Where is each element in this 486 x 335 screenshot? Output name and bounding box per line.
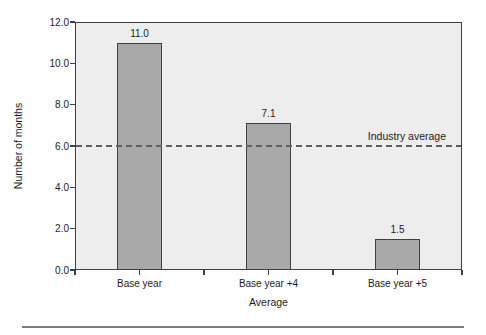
y-tick-mark [70,63,75,65]
bar-value-label: 11.0 [110,27,170,41]
category-label: Base year +5 [333,277,462,290]
x-tick-mark [268,270,270,275]
bar-value-label: 7.1 [239,107,299,121]
x-tick-mark [461,270,463,275]
y-tick-label: 4.0 [29,181,69,194]
y-tick-mark [70,228,75,230]
y-tick-mark [70,104,75,106]
y-tick-mark [70,145,75,147]
y-tick-label: 10.0 [29,57,69,70]
y-tick-label: 0.0 [29,264,69,277]
y-tick-label: 12.0 [29,16,69,29]
bottom-divider-rule [22,326,464,328]
x-tick-mark [397,270,399,275]
bar-base-year-5 [375,239,420,270]
x-axis-title: Average [208,295,329,309]
bar-base-year [117,43,162,270]
y-tick-label: 6.0 [29,140,69,153]
x-tick-mark [139,270,141,275]
bar-chart-figure: Number of months 0.02.04.06.08.010.012.0… [0,0,486,335]
y-tick-label: 2.0 [29,222,69,235]
x-tick-mark [74,270,76,275]
category-label: Base year [75,277,204,290]
industry-average-reference-line [76,145,461,147]
x-tick-mark [203,270,205,275]
y-tick-label: 8.0 [29,98,69,111]
y-tick-mark [70,187,75,189]
category-label: Base year +4 [204,277,333,290]
industry-average-label: Industry average [368,129,446,143]
x-tick-mark [332,270,334,275]
y-tick-mark [70,21,75,23]
bar-value-label: 1.5 [368,223,428,237]
y-axis-title: Number of months [11,87,25,205]
